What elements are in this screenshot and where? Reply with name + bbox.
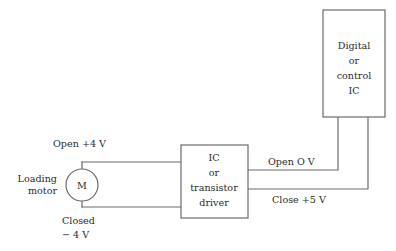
label-motor-closed-line-1: Closed	[62, 215, 95, 226]
digital-ic-line-1: Digital	[338, 40, 371, 51]
circuit-diagram: Digital or control IC IC or transistor d…	[0, 0, 396, 251]
circuit-svg: Digital or control IC IC or transistor d…	[0, 0, 396, 251]
driver-line-3: transistor	[190, 182, 238, 193]
digital-ic-line-2: or	[349, 55, 360, 66]
label-motor-open: Open +4 V	[53, 138, 107, 149]
driver-line-2: or	[209, 167, 220, 178]
driver-line-1: IC	[208, 152, 219, 163]
digital-ic-line-3: control	[337, 70, 372, 81]
motor-label-line-1: Loading	[18, 173, 57, 184]
motor-symbol-letter: M	[77, 180, 87, 191]
digital-ic-line-4: IC	[348, 85, 359, 96]
label-ic-open: Open O V	[268, 156, 316, 167]
motor-label-line-2: motor	[28, 185, 58, 196]
driver-line-4: driver	[199, 197, 229, 208]
wire-close-5v	[248, 117, 368, 189]
label-ic-close: Close +5 V	[272, 194, 327, 205]
label-motor-closed-line-2: − 4 V	[62, 229, 90, 240]
